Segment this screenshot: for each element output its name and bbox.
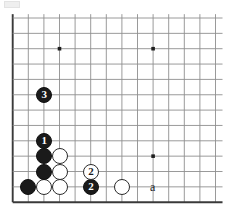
- stone-move-number: 1: [41, 135, 46, 146]
- black-stone[interactable]: 2: [83, 179, 99, 195]
- star-point-upper-right: [151, 47, 155, 51]
- star-point-lower-right: [151, 154, 155, 158]
- star-point-upper-left: [58, 47, 62, 51]
- black-stone[interactable]: [36, 148, 52, 164]
- white-stone[interactable]: [52, 179, 68, 195]
- black-stone[interactable]: [36, 164, 52, 180]
- stone-move-number: 2: [88, 181, 93, 192]
- stone-move-number: 3: [41, 89, 46, 100]
- white-stone[interactable]: [52, 148, 68, 164]
- black-stone[interactable]: 1: [36, 133, 52, 149]
- white-stone[interactable]: [36, 179, 52, 195]
- black-stone[interactable]: 3: [36, 87, 52, 103]
- white-stone[interactable]: [114, 179, 130, 195]
- move-marker-circle[interactable]: 2: [83, 164, 99, 180]
- point-label-a: a: [150, 181, 155, 193]
- go-diagram-figure: 1232a: [0, 0, 225, 222]
- move-marker-number: 2: [88, 166, 93, 177]
- white-stone[interactable]: [52, 164, 68, 180]
